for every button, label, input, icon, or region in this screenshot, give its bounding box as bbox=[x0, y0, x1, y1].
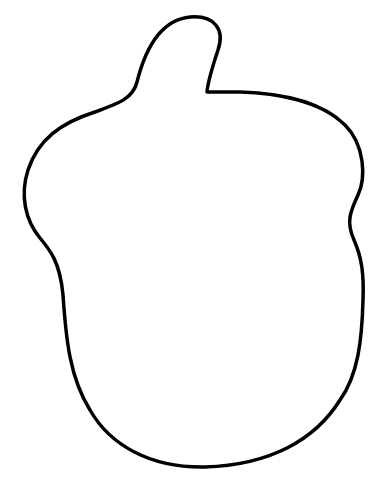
acorn-outline-drawing bbox=[0, 0, 381, 493]
acorn-outline-icon bbox=[24, 17, 363, 467]
